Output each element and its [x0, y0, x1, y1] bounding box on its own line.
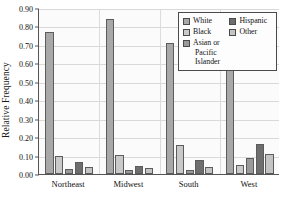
y-axis-tick-label: 0.90	[19, 5, 36, 14]
bar	[45, 32, 53, 174]
bar	[125, 170, 133, 174]
y-axis-tick-mark	[35, 138, 39, 139]
y-axis-tick-label: 0.30	[19, 115, 36, 124]
bar	[166, 43, 174, 174]
legend-item: White	[183, 16, 229, 26]
legend-column-left: WhiteBlackAsian orPacific Islander	[183, 16, 229, 67]
y-axis-tick-mark	[35, 64, 39, 65]
y-axis-tick-mark	[35, 156, 39, 157]
y-axis-tick-label: 0.40	[19, 97, 36, 106]
legend-item: Black	[183, 27, 229, 37]
group-separator	[99, 9, 100, 174]
legend-item: Other	[229, 27, 273, 37]
x-axis-tick-label: Midwest	[114, 179, 144, 189]
legend-swatch	[183, 18, 190, 25]
legend-swatch	[183, 40, 190, 47]
bar	[75, 162, 83, 174]
x-axis-tick-label: South	[179, 179, 199, 189]
y-axis-tick-label: 0.10	[19, 152, 36, 161]
legend-label: Hispanic	[239, 16, 267, 26]
bar	[106, 19, 114, 174]
y-axis-tick-label: 0.50	[19, 78, 36, 87]
y-axis-tick-mark	[35, 82, 39, 83]
y-axis-tick-label: 0.70	[19, 41, 36, 50]
legend-item: Hispanic	[229, 16, 273, 26]
legend-swatch	[229, 18, 236, 25]
bar	[246, 158, 254, 174]
y-axis-tick-mark	[35, 9, 39, 10]
bar	[186, 170, 194, 174]
bar-chart: Relative Frequency WhiteBlackAsian orPac…	[0, 0, 286, 199]
bar	[265, 154, 273, 174]
x-axis-tick-label: Northeast	[52, 179, 85, 189]
bar	[236, 165, 244, 174]
legend-label: White	[193, 16, 212, 26]
y-axis-tick-label: 0.60	[19, 60, 36, 69]
legend-swatch	[229, 29, 236, 36]
y-axis-tick-label: 0.00	[19, 171, 36, 180]
y-axis-title: Relative Frequency	[0, 0, 13, 199]
legend-label: Asian orPacific Islander	[193, 38, 229, 67]
y-axis-tick-mark	[35, 101, 39, 102]
bar	[65, 169, 73, 174]
bar	[226, 54, 234, 174]
bar	[145, 168, 153, 174]
legend-column-right: HispanicOther	[229, 16, 273, 67]
legend-item: Asian orPacific Islander	[183, 38, 229, 67]
bar	[135, 166, 143, 174]
bar	[115, 155, 123, 174]
bar	[55, 156, 63, 174]
bar	[85, 167, 93, 174]
legend-label: Other	[239, 27, 257, 37]
y-axis-tick-mark	[35, 45, 39, 46]
bar	[195, 160, 203, 174]
y-axis-tick-label: 0.80	[19, 23, 36, 32]
bar	[256, 144, 264, 174]
y-axis-tick-mark	[35, 119, 39, 120]
y-axis-tick-label: 0.20	[19, 134, 36, 143]
bar	[205, 167, 213, 174]
y-axis-tick-mark	[35, 27, 39, 28]
group-separator	[160, 9, 161, 174]
x-axis-tick-label: West	[240, 179, 257, 189]
bar	[176, 145, 184, 175]
legend-swatch	[183, 29, 190, 36]
legend-label: Black	[193, 27, 211, 37]
chart-legend: WhiteBlackAsian orPacific Islander Hispa…	[178, 12, 277, 71]
y-axis-tick-mark	[35, 175, 39, 176]
